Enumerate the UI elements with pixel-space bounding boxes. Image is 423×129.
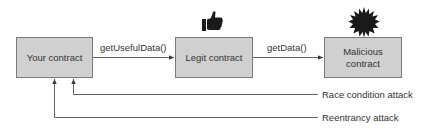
arrow-reentrancy <box>55 79 319 118</box>
node-label: Legit contract <box>185 52 242 64</box>
node-label: Your contract <box>27 52 83 64</box>
attack-diagram: Your contract Legit contract Malicious c… <box>0 0 423 129</box>
node-label: Malicious contract <box>338 46 388 70</box>
arrow-race-condition <box>74 79 319 95</box>
edge-label-get-data: getData() <box>267 42 307 53</box>
starburst-icon <box>348 6 380 38</box>
edge-label-reentrancy: Reentrancy attack <box>322 112 399 123</box>
node-malicious-contract: Malicious contract <box>324 37 402 78</box>
edge-label-race-condition: Race condition attack <box>322 89 413 100</box>
thumbs-up-icon <box>200 9 224 33</box>
node-legit-contract: Legit contract <box>175 37 253 78</box>
node-your-contract: Your contract <box>16 37 93 78</box>
edge-label-get-useful-data: getUsefulData() <box>100 42 167 53</box>
